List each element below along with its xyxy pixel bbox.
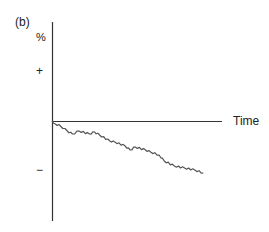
chart-plot-area bbox=[0, 0, 269, 232]
data-series-line bbox=[52, 121, 203, 173]
